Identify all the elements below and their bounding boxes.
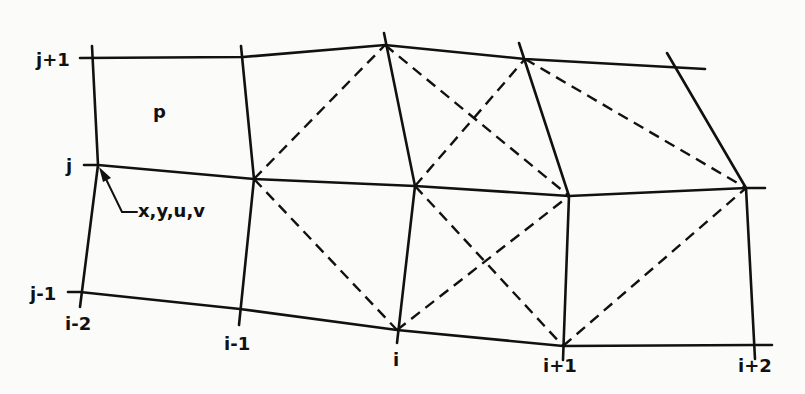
col-line-i-minus-2 [80, 46, 98, 307]
col-line-i-minus-1 [239, 46, 254, 325]
row-label-j-minus-1: j-1 [29, 283, 56, 304]
col-line-i-plus-2 [667, 53, 755, 359]
mesh-diagram: j+1 j j-1 i-2 i-1 i i+1 i+2 p x,y,u,v [0, 0, 805, 394]
col-label-i-minus-2: i-2 [65, 313, 91, 334]
row-label-j: j [65, 155, 72, 176]
diagonal-line [254, 45, 385, 179]
arrowhead-icon [99, 167, 111, 182]
row-label-j-plus-1: j+1 [35, 49, 70, 70]
diagonal-line [415, 186, 563, 346]
diagonal-line [397, 196, 569, 330]
col-label-i-plus-1: i+1 [543, 355, 577, 376]
col-label-i-minus-1: i-1 [224, 333, 250, 354]
diagonal-line [415, 59, 525, 186]
diagonal-line [563, 188, 746, 346]
col-label-i: i [393, 349, 399, 370]
cell-label-p: p [153, 101, 166, 122]
row-line-j-plus-1 [80, 45, 705, 69]
node-variables-label: x,y,u,v [138, 200, 205, 221]
col-line-i [384, 33, 415, 343]
col-label-i-plus-2: i+2 [738, 355, 772, 376]
row-line-j-minus-1 [68, 292, 772, 346]
mesh-svg: j+1 j j-1 i-2 i-1 i i+1 i+2 p x,y,u,v [0, 0, 805, 394]
diagonal-line [254, 179, 397, 330]
row-line-j [84, 165, 765, 196]
diagonal-line [525, 59, 746, 188]
